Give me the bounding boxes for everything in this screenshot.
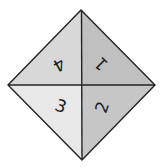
quadrant-diamond-diagram: 4 1 3 2: [0, 0, 163, 168]
